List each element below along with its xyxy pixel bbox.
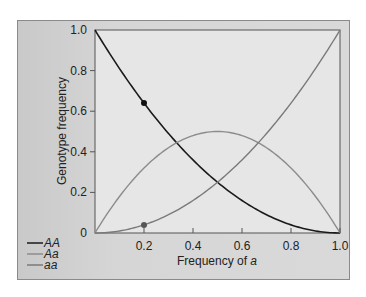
y-tick-label: 0.2 <box>70 185 87 199</box>
point-aa <box>141 222 147 228</box>
y-tick-label: 0.4 <box>70 145 87 159</box>
x-tick-label: 1.0 <box>332 239 349 253</box>
x-tick-label: 0.2 <box>136 239 153 253</box>
y-tick-label: 0.8 <box>70 64 87 78</box>
y-tick-label: 0 <box>80 226 87 240</box>
legend: AAAaaa <box>27 236 60 272</box>
x-tick-label: 0.4 <box>185 239 202 253</box>
y-tick-label: 0.6 <box>70 104 87 118</box>
point-AA <box>141 100 147 106</box>
genotype-frequency-chart: 0.20.40.60.81.000.20.40.60.81.0 Frequenc… <box>0 0 366 297</box>
legend-label-aa: aa <box>44 258 58 272</box>
y-tick-label: 1.0 <box>70 23 87 37</box>
x-axis-title: Frequency of a <box>177 254 257 268</box>
y-axis-title: Genotype frequency <box>55 77 69 185</box>
x-tick-label: 0.6 <box>234 239 251 253</box>
x-tick-label: 0.8 <box>283 239 300 253</box>
